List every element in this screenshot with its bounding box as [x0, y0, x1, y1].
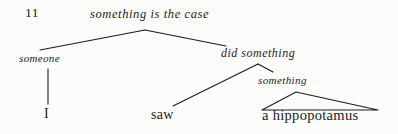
figure-canvas: 11 something is the case someone did som…	[0, 0, 398, 134]
figure-number: 11	[25, 6, 39, 20]
terminal-a-hippopotamus: a hippopotamus	[262, 108, 358, 123]
node-root: something is the case	[90, 8, 209, 21]
node-something: something	[258, 75, 307, 86]
edge-did-something-to-something	[258, 64, 273, 72]
terminal-saw: saw	[151, 108, 174, 122]
edge-root-to-did-something	[145, 30, 226, 46]
edge-did-something-to-saw	[173, 64, 258, 106]
node-someone: someone	[19, 53, 60, 64]
edge-root-to-someone	[40, 30, 145, 50]
node-did-something: did something	[221, 47, 295, 59]
terminal-i: I	[44, 107, 49, 121]
